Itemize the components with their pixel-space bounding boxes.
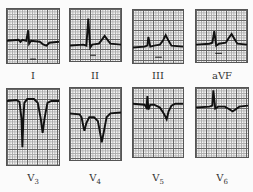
lead-label-V5: V5 [131,172,185,186]
ecg-trace-V5 [133,88,183,157]
ecg-panel-V3 [6,88,60,166]
lead-label-II: II [68,70,122,81]
ecg-panel-III [132,9,184,64]
ecg-panel-I [6,8,60,64]
lead-label-V6: V6 [195,172,249,186]
ecg-panel-aVF [195,9,248,63]
lead-label-III: III [131,70,185,81]
ecg-trace-III [133,10,183,63]
ecg-trace-V3 [7,89,59,165]
ecg-panel-V5 [132,87,184,158]
ecg-trace-aVF [196,10,247,62]
ecg-trace-II [70,9,121,61]
lead-label-V4: V4 [68,172,122,186]
ecg-panel-II [69,8,122,62]
lead-label-I: I [6,70,60,81]
ecg-trace-I [7,9,59,63]
lead-label-aVF: aVF [195,70,249,81]
ecg-panel-V4 [69,87,122,161]
lead-label-V3: V3 [6,172,60,186]
ecg-trace-V4 [70,88,121,160]
ecg-trace-V6 [196,88,248,157]
ecg-panel-V6 [195,87,249,158]
